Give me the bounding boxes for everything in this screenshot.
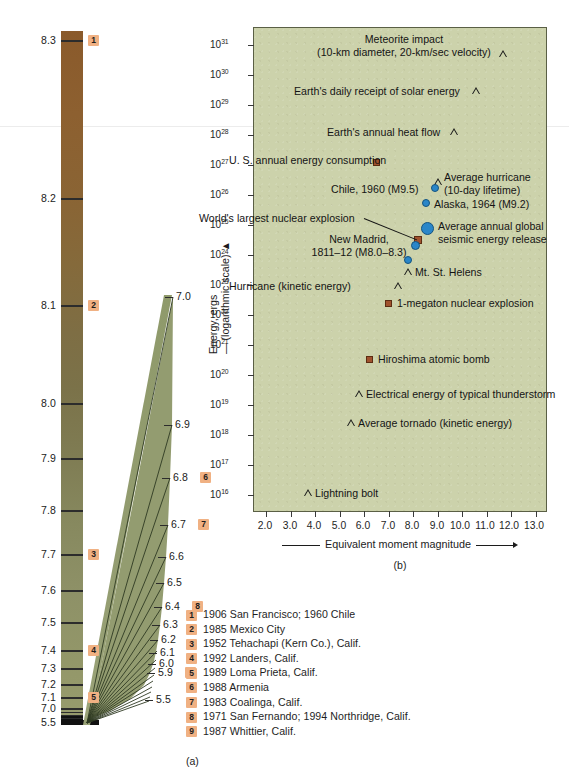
y-axis-tick xyxy=(248,405,254,406)
fan-tick-label: 5.5 xyxy=(156,693,171,705)
fan-tick xyxy=(154,607,162,608)
y-axis-tick xyxy=(248,255,254,256)
y-axis-tick-label: 1016 xyxy=(210,488,246,500)
point-label-alaska-1964: Alaska, 1964 (M9.2) xyxy=(434,198,529,211)
fan-tick xyxy=(158,557,166,558)
legend-item-label: 1989 Loma Prieta, Calif. xyxy=(203,666,318,678)
point-label-new-madrid: New Madrid,1811–12 (M8.0–8.3) xyxy=(309,233,409,258)
fan-tick xyxy=(147,673,155,674)
list-item: 7 1983 Coalinga, Calif. xyxy=(186,696,516,711)
list-item: 4 1992 Landers, Calif. xyxy=(186,652,516,667)
y-axis-tick xyxy=(248,195,254,196)
fan-tick-label: 6.5 xyxy=(167,576,182,588)
marker-triangle-meteorite-inner xyxy=(500,52,506,57)
magnitude-tick-label: 7.9 xyxy=(22,452,56,464)
fan-tick xyxy=(150,640,158,641)
fan-tick-label: 7.0 xyxy=(176,290,191,302)
panel-b-caption: (b) xyxy=(253,559,547,571)
badge-1-on-scale: 1 xyxy=(88,35,99,46)
magnitude-tick xyxy=(61,650,83,652)
y-axis-tick xyxy=(248,45,254,46)
point-label-meteorite-impact: Meteorite impact(10-km diameter, 20-km/s… xyxy=(309,33,499,58)
plot-background-texture xyxy=(254,28,546,511)
x-axis-tick xyxy=(536,511,537,517)
legend-item-label: 1992 Landers, Calif. xyxy=(203,652,299,664)
fan-tick xyxy=(160,525,168,526)
badge-5-on-scale: 5 xyxy=(88,692,99,703)
list-item: 8 1971 San Fernando; 1994 Northridge, Ca… xyxy=(186,710,516,725)
marker-triangle-lightning-bolt-inner xyxy=(305,491,311,496)
point-label-hurricane-kinetic: Hurricane (kinetic energy) xyxy=(229,280,351,293)
x-axis-tick xyxy=(291,511,292,517)
fan-tick-label: 6.3 xyxy=(163,618,178,630)
marker-triangle-mt-st-helens-inner xyxy=(405,270,411,275)
x-axis-tick xyxy=(438,511,439,517)
x-axis-label-text: Equivalent moment magnitude xyxy=(325,538,471,550)
y-axis-tick-label: 1017 xyxy=(210,458,246,470)
y-axis-tick-label: 1031 xyxy=(210,38,246,50)
y-axis-tick-label: 1030 xyxy=(210,68,246,80)
legend-badge: 1 xyxy=(186,610,197,621)
list-item: 5 1989 Loma Prieta, Calif. xyxy=(186,666,516,681)
marker-triangle-hurricane-kinetic-inner xyxy=(395,284,401,289)
point-label-mt-st-helens: Mt. St. Helens xyxy=(415,266,482,279)
point-label-us-energy-consumption: U. S. annual energy consumption xyxy=(229,154,386,167)
y-axis-tick xyxy=(248,495,254,496)
magnitude-tick xyxy=(61,708,83,710)
point-label-hiroshima-bomb: Hiroshima atomic bomb xyxy=(378,353,490,366)
y-axis-tick xyxy=(248,375,254,376)
fan-tick-label: 6.6 xyxy=(169,550,184,562)
magnitude-subtick xyxy=(61,712,83,713)
x-axis-tick xyxy=(487,511,488,517)
magnitude-tick xyxy=(61,403,83,405)
y-axis-tick-label: 1024 xyxy=(210,248,246,260)
x-axis-tick xyxy=(266,511,267,517)
legend-item-label: 1906 San Francisco; 1960 Chile xyxy=(203,608,355,620)
magnitude-tick-label: 8.3 xyxy=(22,34,56,46)
panel-b-energy-magnitude-chart: Energy, ergs — (logarithmic scale) ▲ xyxy=(196,14,569,574)
point-label-chile-1960: Chile, 1960 (M9.5) xyxy=(331,183,419,196)
magnitude-tick-label: 8.1 xyxy=(22,299,56,311)
fan-tick xyxy=(162,478,170,479)
legend-badge: 4 xyxy=(186,653,197,664)
marker-triangle-thunderstorm-inner xyxy=(356,392,362,397)
y-axis-tick-label: 1023 xyxy=(210,278,246,290)
y-axis-tick xyxy=(248,225,254,226)
legend-badge: 6 xyxy=(186,682,197,693)
y-axis-tick-label: 1021 xyxy=(210,338,246,350)
y-axis-tick xyxy=(248,315,254,316)
y-axis-tick xyxy=(248,345,254,346)
marker-circle-new-madrid xyxy=(411,241,420,250)
magnitude-tick-label: 7.8 xyxy=(22,504,56,516)
legend-badge: 9 xyxy=(186,726,197,737)
magnitude-tick-label: 7.3 xyxy=(22,662,56,674)
y-axis-tick xyxy=(248,135,254,136)
marker-circle-chile-1960 xyxy=(431,184,439,192)
magnitude-tick xyxy=(61,590,83,592)
magnitude-subtick xyxy=(61,715,83,716)
magnitude-subtick xyxy=(61,718,83,719)
magnitude-tick xyxy=(61,198,83,200)
marker-square-1-megaton-explosion xyxy=(385,300,392,307)
y-axis-tick xyxy=(248,75,254,76)
point-label-earth-heat-flow: Earth's annual heat flow xyxy=(327,126,440,139)
y-axis-tick-label: 1028 xyxy=(210,128,246,140)
x-axis-tick xyxy=(315,511,316,517)
y-axis-tick-label: 1029 xyxy=(210,98,246,110)
plot-area: Meteorite impact(10-km diameter, 20-km/s… xyxy=(253,27,547,512)
magnitude-tick-label: 7.7 xyxy=(22,548,56,560)
fan-tick xyxy=(145,700,153,701)
fan-tick xyxy=(164,425,172,426)
legend-item-label: 1983 Coalinga, Calif. xyxy=(203,696,302,708)
marker-triangle-average-tornado-inner xyxy=(348,421,354,426)
magnitude-tick-label: 8.0 xyxy=(22,397,56,409)
legend-badge: 7 xyxy=(186,697,197,708)
marker-triangle-solar-energy-inner xyxy=(473,89,479,94)
fan-tick-label: 5.9 xyxy=(158,666,173,678)
legend-badge: 5 xyxy=(186,668,197,679)
y-axis-tick-label: 1027 xyxy=(210,158,246,170)
x-axis-tick xyxy=(340,511,341,517)
x-axis-tick xyxy=(364,511,365,517)
magnitude-tick xyxy=(61,684,83,686)
x-axis-tick xyxy=(413,511,414,517)
